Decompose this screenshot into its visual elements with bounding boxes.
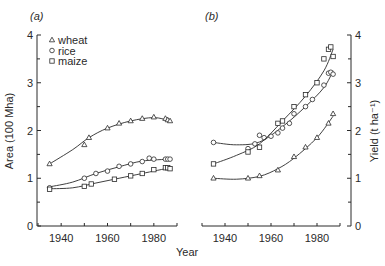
circle-marker-icon: [211, 140, 216, 145]
y-tick-label: 0: [27, 220, 33, 232]
y-tick-label: 0: [355, 220, 361, 232]
trend-line: [214, 49, 334, 164]
panel-b-label: (b): [205, 10, 219, 22]
legend: wheatricemaize: [49, 34, 87, 67]
panel-b-yield-chart: 19401960198001234: [202, 29, 361, 244]
circle-marker-icon: [322, 83, 327, 88]
square-marker-icon: [322, 57, 326, 61]
figure: (a) (b) 19401960198001234 19401960198001…: [0, 0, 385, 266]
y-tick-label: 1: [27, 172, 33, 184]
circle-marker-icon: [147, 156, 152, 161]
triangle-marker-icon: [116, 121, 121, 126]
x-tick-label: 1960: [95, 232, 119, 244]
y-tick-label: 3: [27, 77, 33, 89]
circle-marker-icon: [276, 131, 281, 136]
square-marker-icon: [315, 81, 319, 85]
circle-marker-icon: [140, 159, 145, 164]
y-axis: 01234: [27, 29, 41, 232]
square-marker-icon: [128, 174, 132, 178]
circle-marker-icon: [262, 135, 267, 140]
square-marker-icon: [50, 59, 54, 63]
series-wheat: [211, 111, 336, 180]
y-axis: 01234: [347, 29, 361, 232]
square-marker-icon: [152, 167, 156, 171]
x-tick-label: 1980: [142, 232, 166, 244]
series-maize: [211, 45, 335, 166]
y-axis-label-area: Area (100 Mha): [3, 93, 15, 169]
series-rice: [47, 156, 172, 190]
x-axis: 194019601980: [38, 223, 177, 244]
circle-marker-icon: [280, 126, 285, 131]
square-marker-icon: [89, 182, 93, 186]
circle-marker-icon: [310, 97, 315, 102]
triangle-marker-icon: [326, 121, 331, 126]
triangle-marker-icon: [151, 114, 156, 119]
x-tick-label: 1980: [305, 232, 329, 244]
legend-item-maize: maize: [50, 55, 88, 67]
square-marker-icon: [112, 177, 116, 181]
trend-line: [50, 118, 170, 164]
x-axis: 194019601980: [202, 223, 340, 244]
trend-line: [214, 116, 334, 179]
square-marker-icon: [276, 121, 280, 125]
y-tick-label: 3: [355, 77, 361, 89]
circle-marker-icon: [82, 176, 87, 181]
triangle-marker-icon: [211, 175, 216, 180]
circle-marker-icon: [128, 162, 133, 167]
square-marker-icon: [329, 45, 333, 49]
square-marker-icon: [82, 184, 86, 188]
circle-marker-icon: [152, 157, 157, 162]
circle-marker-icon: [105, 169, 110, 174]
square-marker-icon: [140, 171, 144, 175]
square-marker-icon: [331, 54, 335, 58]
circle-marker-icon: [287, 121, 292, 126]
circle-marker-icon: [117, 164, 122, 169]
x-tick-label: 1940: [49, 232, 73, 244]
y-tick-label: 2: [355, 125, 361, 137]
y-tick-label: 2: [27, 125, 33, 137]
square-marker-icon: [47, 187, 51, 191]
square-marker-icon: [168, 167, 172, 171]
triangle-marker-icon: [257, 173, 262, 178]
triangle-marker-icon: [49, 37, 54, 42]
square-marker-icon: [292, 104, 296, 108]
trend-line: [50, 159, 170, 187]
x-axis-label: Year: [176, 246, 199, 258]
triangle-marker-icon: [47, 161, 52, 166]
y-axis-label-yield: Yield (t ha⁻¹): [368, 100, 380, 162]
square-marker-icon: [246, 150, 250, 154]
y-tick-label: 4: [355, 29, 361, 41]
circle-marker-icon: [331, 72, 336, 77]
circle-marker-icon: [94, 171, 99, 176]
square-marker-icon: [257, 145, 261, 149]
square-marker-icon: [211, 162, 215, 166]
y-tick-label: 4: [27, 29, 33, 41]
circle-marker-icon: [257, 133, 262, 138]
circle-marker-icon: [168, 157, 173, 162]
panel-a-area-chart: 19401960198001234: [27, 29, 177, 244]
triangle-marker-icon: [86, 135, 91, 140]
circle-marker-icon: [292, 111, 297, 116]
square-marker-icon: [280, 119, 284, 123]
circle-marker-icon: [50, 48, 55, 53]
x-tick-label: 1960: [259, 232, 283, 244]
legend-label: maize: [58, 55, 87, 67]
panel-a-label: (a): [30, 10, 44, 22]
square-marker-icon: [303, 92, 307, 96]
triangle-marker-icon: [331, 111, 336, 116]
circle-marker-icon: [303, 104, 308, 109]
x-tick-label: 1940: [213, 232, 237, 244]
y-tick-label: 1: [355, 172, 361, 184]
